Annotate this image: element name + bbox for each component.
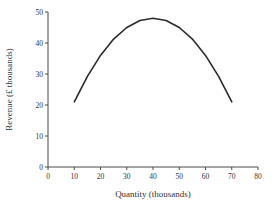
y-tick-label: 30: [36, 70, 44, 79]
x-tick-label: 80: [254, 172, 262, 181]
x-tick-label: 50: [176, 172, 184, 181]
chart-canvas: 0102030405001020304050607080Quantity (th…: [0, 0, 276, 205]
x-tick-label: 0: [46, 172, 50, 181]
x-axis-title: Quantity (thousands): [115, 189, 191, 199]
x-tick-label: 20: [97, 172, 105, 181]
x-tick-label: 10: [71, 172, 79, 181]
revenue-quantity-chart: 0102030405001020304050607080Quantity (th…: [0, 0, 276, 205]
x-tick-label: 60: [202, 172, 210, 181]
x-tick-label: 30: [123, 172, 131, 181]
x-tick-label: 70: [228, 172, 236, 181]
y-tick-label: 50: [36, 8, 44, 17]
revenue-curve: [74, 18, 232, 102]
y-tick-label: 10: [36, 132, 44, 141]
y-tick-label: 40: [36, 39, 44, 48]
y-axis-title: Revenue (£ thousands): [4, 48, 14, 130]
x-tick-label: 40: [149, 172, 157, 181]
y-tick-label: 0: [39, 163, 43, 172]
y-tick-label: 20: [36, 101, 44, 110]
